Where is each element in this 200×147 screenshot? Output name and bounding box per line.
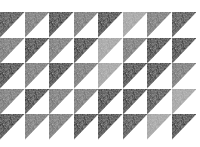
triangle-cell [49, 12, 74, 38]
triangle-cell [49, 89, 74, 115]
half-square-triangle-icon [49, 89, 74, 115]
half-square-triangle-icon [0, 12, 25, 38]
half-square-triangle-icon [49, 38, 74, 64]
half-square-triangle-icon [123, 38, 148, 64]
half-square-triangle-icon [74, 114, 99, 140]
half-square-triangle-icon [172, 89, 197, 115]
triangle-cell [25, 12, 50, 38]
triangle-cell [123, 12, 148, 38]
half-square-triangle-icon [98, 114, 123, 140]
half-square-triangle-icon [147, 63, 172, 89]
triangle-cell [172, 38, 197, 64]
half-square-triangle-icon [123, 12, 148, 38]
half-square-triangle-icon [74, 12, 99, 38]
half-square-triangle-icon [123, 89, 148, 115]
triangle-cell [172, 63, 197, 89]
triangle-cell [0, 114, 25, 140]
triangle-cell [172, 89, 197, 115]
triangle-cell [147, 114, 172, 140]
half-square-triangle-icon [49, 63, 74, 89]
triangle-cell [0, 38, 25, 64]
half-square-triangle-icon [0, 38, 25, 64]
triangle-cell [25, 89, 50, 115]
half-square-triangle-icon [147, 12, 172, 38]
triangle-cell [147, 63, 172, 89]
half-square-triangle-icon [172, 12, 197, 38]
half-square-triangle-icon [123, 114, 148, 140]
half-square-triangle-icon [25, 12, 50, 38]
half-square-triangle-icon [147, 114, 172, 140]
triangle-cell [147, 38, 172, 64]
half-square-triangle-icon [49, 114, 74, 140]
half-square-triangle-icon [123, 63, 148, 89]
triangle-cell [0, 63, 25, 89]
triangle-cell [74, 114, 99, 140]
half-square-triangle-icon [25, 89, 50, 115]
triangle-cell [98, 114, 123, 140]
half-square-triangle-icon [0, 63, 25, 89]
half-square-triangle-icon [98, 12, 123, 38]
triangle-cell [123, 89, 148, 115]
triangle-cell [123, 38, 148, 64]
half-square-triangle-icon [98, 89, 123, 115]
triangle-cell [25, 63, 50, 89]
half-square-triangle-icon [172, 38, 197, 64]
half-square-triangle-icon [147, 89, 172, 115]
half-square-triangle-icon [25, 38, 50, 64]
half-square-triangle-icon [172, 63, 197, 89]
triangle-cell [98, 63, 123, 89]
half-square-triangle-icon [74, 38, 99, 64]
half-square-triangle-icon [98, 63, 123, 89]
half-square-triangle-icon [0, 114, 25, 140]
half-square-triangle-icon [74, 89, 99, 115]
triangle-cell [74, 89, 99, 115]
triangle-cell [49, 114, 74, 140]
triangle-cell [0, 89, 25, 115]
half-square-triangle-icon [49, 12, 74, 38]
half-square-triangle-icon [0, 89, 25, 115]
triangle-cell [147, 12, 172, 38]
triangle-cell [49, 63, 74, 89]
triangle-cell [172, 114, 197, 140]
half-square-triangle-icon [25, 63, 50, 89]
triangle-cell [25, 114, 50, 140]
triangle-cell [25, 38, 50, 64]
triangle-quilt-grid [0, 12, 196, 140]
triangle-cell [98, 38, 123, 64]
half-square-triangle-icon [25, 114, 50, 140]
triangle-cell [123, 63, 148, 89]
half-square-triangle-icon [147, 38, 172, 64]
half-square-triangle-icon [172, 114, 197, 140]
triangle-cell [98, 12, 123, 38]
triangle-cell [74, 63, 99, 89]
triangle-cell [123, 114, 148, 140]
triangle-cell [49, 38, 74, 64]
triangle-cell [147, 89, 172, 115]
triangle-cell [0, 12, 25, 38]
triangle-cell [172, 12, 197, 38]
half-square-triangle-icon [74, 63, 99, 89]
triangle-cell [74, 12, 99, 38]
triangle-cell [98, 89, 123, 115]
half-square-triangle-icon [98, 38, 123, 64]
triangle-cell [74, 38, 99, 64]
